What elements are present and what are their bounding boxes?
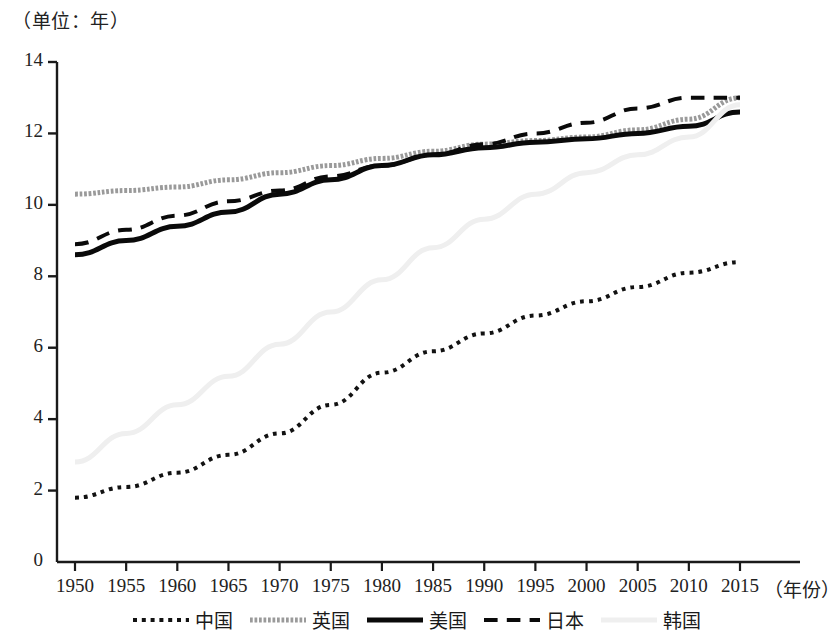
dotted-swatch (132, 613, 190, 627)
chart-series (75, 98, 740, 498)
chart-legend: 中国英国美国日本韩国 (0, 606, 833, 633)
chart-figure: （单位：年） 02468101214 195019551960196519701… (0, 0, 833, 643)
dashed-swatch (483, 613, 541, 627)
x-axis-title: （年份） (764, 575, 833, 602)
legend-label: 中国 (195, 606, 233, 633)
y-axis-tick-label: 8 (7, 263, 43, 285)
light-swatch (600, 613, 658, 627)
y-axis-tick-label: 14 (7, 49, 43, 71)
x-axis-tick-label: 2015 (710, 575, 770, 597)
legend-item[interactable]: 中国 (132, 606, 233, 633)
legend-item[interactable]: 日本 (483, 606, 584, 633)
legend-item[interactable]: 韩国 (600, 606, 701, 633)
y-axis-tick-label: 10 (7, 192, 43, 214)
series-line-3 (75, 112, 740, 255)
y-axis-tick-label: 0 (7, 549, 43, 571)
textured-swatch (249, 613, 307, 627)
legend-label: 日本 (546, 606, 584, 633)
legend-label: 韩国 (663, 606, 701, 633)
legend-item[interactable]: 美国 (366, 606, 467, 633)
series-line-1 (75, 262, 740, 498)
series-line-4 (75, 98, 740, 244)
series-line-2 (75, 98, 740, 194)
solid-swatch (366, 613, 424, 627)
y-axis-tick-label: 12 (7, 120, 43, 142)
y-axis-tick-label: 2 (7, 478, 43, 500)
y-axis-tick-label: 4 (7, 406, 43, 428)
line-chart-plot (0, 0, 833, 643)
legend-item[interactable]: 英国 (249, 606, 350, 633)
y-axis-tick-label: 6 (7, 335, 43, 357)
legend-label: 英国 (312, 606, 350, 633)
legend-label: 美国 (429, 606, 467, 633)
